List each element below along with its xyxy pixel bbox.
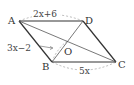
vertex-label-d: D (85, 15, 93, 26)
vertex-label-b: B (42, 61, 49, 72)
edge-dc (83, 21, 116, 62)
measure-bc: 5x (79, 66, 90, 76)
edge-ba (19, 21, 52, 62)
measure-ad: 2x+6 (33, 9, 57, 19)
parallelogram-diagram: A D B C O 2x+6 3x−2 5x (0, 0, 134, 85)
vertex-label-o: O (64, 46, 72, 57)
measure-bo: 3x−2 (7, 43, 31, 53)
vertex-label-c: C (118, 59, 126, 70)
vertex-label-a: A (7, 15, 16, 26)
